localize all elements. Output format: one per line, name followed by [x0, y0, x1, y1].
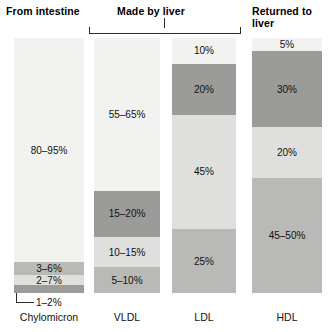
- bar-segment: 25%: [172, 229, 236, 293]
- bracket-right-tick: [240, 27, 241, 34]
- segment-value-label: 45%: [194, 166, 214, 177]
- segment-value-label: 15–20%: [109, 208, 146, 219]
- bar-segment: 10–15%: [94, 237, 160, 268]
- stacked-bar-chart: From intestine Made by liver Returned to…: [0, 0, 332, 332]
- bar-segment: [14, 285, 84, 293]
- bar-segment: 3–6%: [14, 262, 84, 275]
- segment-value-label: 25%: [194, 256, 214, 267]
- bar-hdl: 5%30%20%45–50%: [252, 38, 322, 293]
- leader-horizontal: [16, 302, 34, 303]
- segment-value-label: 20%: [194, 84, 214, 95]
- segment-value-label: 5–10%: [111, 275, 142, 286]
- segment-value-label: 3–6%: [36, 263, 62, 274]
- bar-chylomicron: 80–95%3–6%2–7%: [14, 38, 84, 293]
- bracket-horizontal: [89, 33, 241, 34]
- segment-value-label: 55–65%: [109, 109, 146, 120]
- bar-segment: 15–20%: [94, 191, 160, 237]
- segment-value-label: 80–95%: [31, 145, 68, 156]
- segment-value-label: 45–50%: [269, 230, 306, 241]
- category-label-vldl: VLDL: [94, 311, 160, 323]
- category-label-hdl: HDL: [252, 311, 322, 323]
- bar-segment: 5–10%: [94, 267, 160, 293]
- bracket-stem: [164, 18, 165, 28]
- group-header-returned-to-liver: Returned to liver: [252, 6, 330, 29]
- segment-value-label: 2–7%: [36, 275, 62, 285]
- segment-value-label: 30%: [277, 84, 297, 95]
- bar-segment: 2–7%: [14, 275, 84, 285]
- segment-value-label: 5%: [280, 39, 294, 50]
- segment-value-label: 10–15%: [109, 247, 146, 258]
- bar-segment: 20%: [172, 64, 236, 115]
- bar-segment: 20%: [252, 127, 322, 178]
- callout-label-1-2-percent: 1–2%: [36, 297, 62, 308]
- bar-segment: 80–95%: [14, 38, 84, 262]
- segment-value-label: 20%: [277, 147, 297, 158]
- bar-segment: 55–65%: [94, 38, 160, 191]
- category-label-ldl: LDL: [172, 311, 236, 323]
- group-header-made-by-liver: Made by liver: [96, 6, 206, 18]
- bar-segment: 5%: [252, 38, 322, 51]
- category-label-chylomicron: Chylomicron: [2, 311, 96, 323]
- made-by-liver-bracket: [89, 24, 241, 34]
- bar-ldl: 10%20%45%25%: [172, 38, 236, 293]
- bar-segment: 45%: [172, 115, 236, 230]
- bar-segment: 10%: [172, 38, 236, 64]
- bar-segment: 30%: [252, 51, 322, 128]
- bar-segment: 45–50%: [252, 178, 322, 293]
- bar-vldl: 55–65%15–20%10–15%5–10%: [94, 38, 160, 293]
- segment-value-label: 10%: [194, 45, 214, 56]
- bracket-left-tick: [89, 27, 90, 34]
